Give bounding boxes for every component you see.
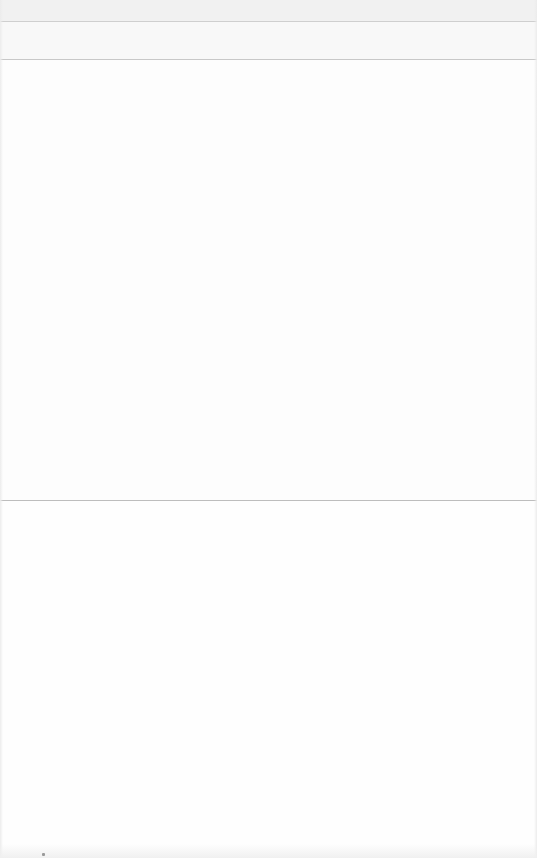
footer-shade	[0, 844, 537, 858]
artifact-dot	[42, 853, 45, 856]
toolbar-band	[0, 22, 537, 60]
header-bar	[0, 0, 537, 22]
content-area-upper	[0, 60, 537, 500]
left-edge-shade	[0, 0, 3, 858]
content-area-lower	[0, 501, 537, 858]
blank-page	[0, 0, 537, 858]
